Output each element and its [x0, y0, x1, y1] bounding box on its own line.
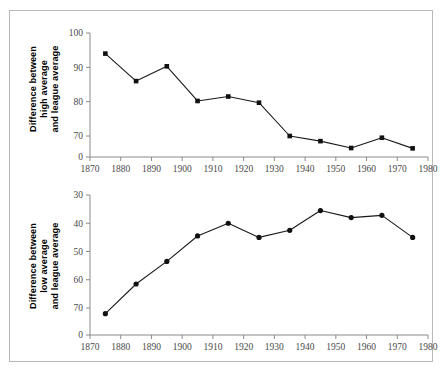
data-point-marker — [287, 134, 292, 139]
y-tick-label: 70 — [74, 131, 84, 141]
x-tick-label: 1940 — [296, 342, 315, 352]
data-point-marker — [349, 146, 354, 151]
x-tick-label: 1930 — [265, 342, 284, 352]
data-point-marker — [195, 233, 200, 238]
data-point-marker — [256, 235, 261, 240]
y-axis-title-line: high average — [39, 19, 50, 159]
y-axis-title-line: and league average — [50, 19, 61, 159]
y-tick-label: 80 — [74, 97, 84, 107]
chart-canvas-top: 0708090100187018801890190019101920193019… — [10, 11, 447, 181]
data-point-marker — [379, 213, 384, 218]
chart-high-average: Difference betweenhigh averageand league… — [10, 11, 447, 181]
data-point-marker — [410, 235, 415, 240]
x-tick-label: 1910 — [203, 342, 222, 352]
data-point-marker — [103, 51, 108, 56]
data-point-marker — [165, 64, 170, 69]
y-axis-title-top: Difference betweenhigh averageand league… — [28, 19, 62, 159]
figure-frame: Difference betweenhigh averageand league… — [9, 10, 433, 362]
data-point-marker — [134, 79, 139, 84]
data-point-marker — [164, 259, 169, 264]
data-point-marker — [287, 228, 292, 233]
data-point-marker — [349, 215, 354, 220]
data-point-marker — [380, 135, 385, 140]
y-tick-label: 100 — [69, 28, 84, 38]
x-tick-label: 1870 — [81, 342, 100, 352]
data-point-marker — [318, 139, 323, 144]
data-point-marker — [257, 100, 262, 105]
y-tick-label: 40 — [74, 219, 84, 229]
y-axis-title-line: low average — [39, 181, 50, 351]
data-point-marker — [410, 146, 415, 151]
data-point-marker — [226, 221, 231, 226]
x-tick-label: 1890 — [142, 342, 161, 352]
y-tick-label: 50 — [74, 247, 84, 257]
y-tick-label: 60 — [74, 275, 84, 285]
y-tick-label: 70 — [74, 303, 84, 313]
x-tick-label: 1970 — [388, 342, 407, 352]
data-point-marker — [103, 311, 108, 316]
y-tick-label: 90 — [74, 63, 84, 73]
y-tick-label: 0 — [78, 152, 83, 162]
x-tick-label: 1960 — [357, 342, 376, 352]
x-tick-label: 1950 — [326, 342, 345, 352]
x-tick-label: 1880 — [111, 342, 130, 352]
data-point-marker — [226, 94, 231, 99]
x-tick-label: 1980 — [419, 342, 438, 352]
chart-canvas-bottom: 0706050403018701880189019001910192019301… — [10, 173, 447, 373]
y-axis-title-line: Difference between — [28, 181, 39, 351]
y-axis-title-line: and league average — [50, 181, 61, 351]
data-point-marker — [318, 208, 323, 213]
x-tick-label: 1900 — [173, 342, 192, 352]
x-tick-label: 1920 — [234, 342, 253, 352]
y-axis-title-bottom: Difference betweenlow averageand league … — [28, 181, 62, 351]
y-tick-label: 0 — [78, 330, 83, 340]
data-series-line — [105, 211, 412, 314]
chart-low-average: Difference betweenlow averageand league … — [10, 173, 447, 373]
data-point-marker — [195, 99, 200, 104]
data-point-marker — [133, 281, 138, 286]
y-tick-label: 30 — [74, 190, 84, 200]
y-axis-title-line: Difference between — [28, 19, 39, 159]
